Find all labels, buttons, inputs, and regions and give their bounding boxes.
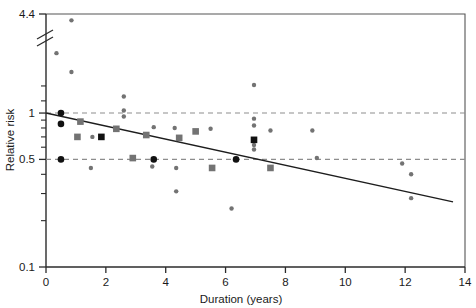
x-tick-label: 0 bbox=[43, 276, 49, 288]
x-axis-title: Duration (years) bbox=[200, 293, 283, 305]
data-point bbox=[69, 18, 73, 22]
data-point bbox=[252, 143, 256, 147]
data-point bbox=[150, 164, 154, 168]
data-point bbox=[315, 156, 319, 160]
data-point bbox=[58, 110, 65, 117]
axis-ticks bbox=[39, 14, 465, 273]
data-point bbox=[54, 51, 58, 55]
data-point bbox=[90, 135, 94, 139]
data-point bbox=[152, 125, 156, 129]
data-point bbox=[267, 165, 274, 172]
data-point bbox=[174, 189, 178, 193]
data-point bbox=[143, 132, 150, 139]
data-point bbox=[208, 127, 212, 131]
data-point bbox=[69, 70, 73, 74]
data-point bbox=[209, 165, 216, 172]
y-tick-label: 0.5 bbox=[19, 153, 35, 165]
y-tick-label: 0.1 bbox=[19, 261, 35, 273]
data-point bbox=[251, 137, 258, 144]
y-tick-label: 4.4 bbox=[19, 8, 36, 20]
regression-line bbox=[46, 113, 453, 202]
data-point bbox=[98, 134, 105, 141]
data-point bbox=[409, 196, 413, 200]
x-tick-label: 8 bbox=[282, 276, 288, 288]
data-point bbox=[77, 118, 84, 125]
data-point bbox=[233, 156, 240, 163]
x-tick-label: 6 bbox=[222, 276, 228, 288]
data-point bbox=[176, 135, 183, 142]
x-tick-label: 2 bbox=[103, 276, 109, 288]
data-point bbox=[268, 128, 272, 132]
data-point bbox=[192, 128, 199, 135]
data-point bbox=[252, 83, 256, 87]
fitted-regression-line bbox=[46, 113, 453, 202]
x-tick-label: 10 bbox=[339, 276, 352, 288]
data-point bbox=[113, 126, 120, 133]
data-point bbox=[310, 128, 314, 132]
data-point bbox=[229, 206, 233, 210]
y-tick-label: 1 bbox=[29, 107, 35, 119]
data-point bbox=[252, 116, 256, 120]
data-point bbox=[74, 134, 81, 141]
chart-figure: 024681012140.10.514.4 Duration (years) R… bbox=[0, 0, 476, 308]
data-point bbox=[400, 161, 404, 165]
data-point bbox=[58, 156, 65, 163]
data-point bbox=[122, 108, 126, 112]
data-point bbox=[58, 121, 65, 128]
data-point bbox=[409, 172, 413, 176]
x-tick-label: 14 bbox=[459, 276, 472, 288]
data-point bbox=[150, 156, 157, 163]
data-point bbox=[252, 147, 256, 151]
data-point bbox=[89, 166, 93, 170]
data-point bbox=[174, 166, 178, 170]
data-point bbox=[129, 155, 136, 162]
data-point bbox=[122, 94, 126, 98]
x-tick-label: 12 bbox=[399, 276, 412, 288]
axis-tick-labels: 024681012140.10.514.4 bbox=[19, 8, 472, 288]
data-point bbox=[122, 114, 126, 118]
data-point bbox=[172, 126, 176, 130]
data-point bbox=[252, 123, 256, 127]
x-tick-label: 4 bbox=[163, 276, 170, 288]
y-axis-break-marks bbox=[37, 30, 53, 46]
scatter-plot: 024681012140.10.514.4 Duration (years) R… bbox=[0, 0, 476, 308]
y-axis-title: Relative risk bbox=[4, 108, 16, 171]
